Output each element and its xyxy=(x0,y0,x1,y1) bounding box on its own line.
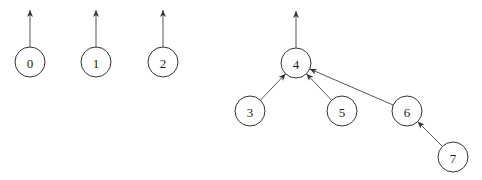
node-label: 6 xyxy=(404,105,411,120)
node-label: 1 xyxy=(93,56,100,71)
node-1: 1 xyxy=(81,47,111,77)
node-2: 2 xyxy=(148,47,178,77)
node-label: 0 xyxy=(27,56,34,71)
node-7: 7 xyxy=(438,142,468,172)
forest-diagram: 01243567 xyxy=(0,0,482,180)
edge-7-to-6 xyxy=(418,122,443,147)
node-label: 4 xyxy=(293,57,300,72)
node-label: 3 xyxy=(247,105,254,120)
edges-layer xyxy=(30,10,442,146)
node-label: 7 xyxy=(450,151,457,166)
node-label: 2 xyxy=(160,56,167,71)
node-3: 3 xyxy=(235,96,265,126)
node-0: 0 xyxy=(15,47,45,77)
node-label: 5 xyxy=(339,105,346,120)
edge-5-to-4 xyxy=(306,74,331,100)
nodes-layer: 01243567 xyxy=(15,47,468,172)
node-5: 5 xyxy=(327,96,357,126)
node-6: 6 xyxy=(392,96,422,126)
edge-3-to-4 xyxy=(260,74,285,100)
node-4: 4 xyxy=(281,48,311,78)
